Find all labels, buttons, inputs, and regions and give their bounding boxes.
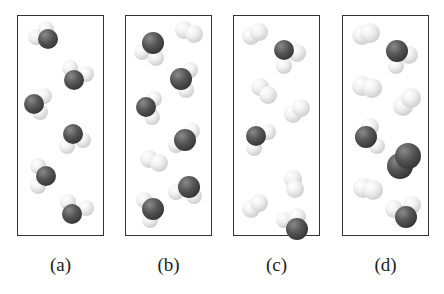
panel-d-label: (d) — [342, 254, 429, 276]
panel-c — [233, 15, 320, 236]
panel-a — [17, 15, 104, 236]
panel-b-label: (b) — [125, 254, 212, 276]
panel-c-label: (c) — [233, 254, 320, 276]
panel-b — [125, 15, 212, 236]
panel-a-label: (a) — [17, 254, 104, 276]
panel-d — [342, 15, 429, 236]
